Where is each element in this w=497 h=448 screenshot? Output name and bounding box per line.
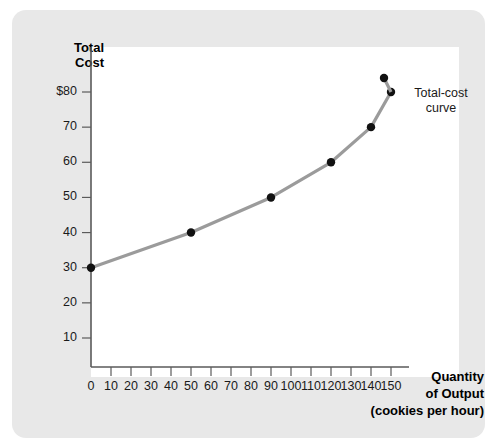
y-axis-ticks: [82, 92, 91, 338]
data-point-0-30: [87, 264, 95, 272]
data-point-markers: [87, 88, 395, 272]
figure-panel: Total Cost Quantity of Output (cookies p…: [12, 10, 485, 438]
annotation-dot: [380, 74, 388, 82]
data-point-50-40: [187, 228, 195, 236]
chart-svg: [12, 10, 485, 438]
total-cost-curve-path: [91, 92, 391, 268]
total-cost-curve: [91, 92, 391, 268]
data-point-90-50: [267, 193, 275, 201]
data-point-120-60: [327, 158, 335, 166]
x-axis-ticks: [111, 367, 391, 376]
annotation-leader: [380, 74, 391, 92]
data-point-140-70: [367, 123, 375, 131]
